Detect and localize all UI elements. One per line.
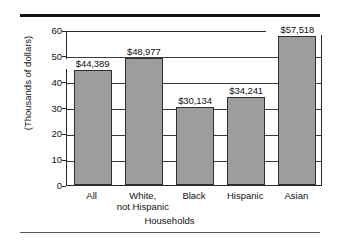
- y-axis-tick-label: 40: [36, 78, 62, 88]
- x-axis-tick-label: Asian: [256, 190, 336, 201]
- bar: [125, 58, 163, 185]
- y-axis-tick-label: 30: [36, 104, 62, 114]
- y-axis-tick-mark: [62, 82, 66, 83]
- y-axis-tick-label: 20: [36, 129, 62, 139]
- bar: [278, 36, 316, 185]
- bar-chart-figure: (Thousands of dollars) 0102030405060 Hou…: [0, 0, 339, 242]
- bar-value-label: $30,134: [164, 96, 226, 106]
- y-axis-tick-mark: [62, 160, 66, 161]
- bar-value-label: $44,389: [62, 59, 124, 69]
- bar: [74, 70, 112, 185]
- y-axis-title: (Thousands of dollars): [23, 8, 33, 158]
- x-axis-tick-label-line: Asian: [256, 190, 336, 201]
- y-axis-tick-mark: [62, 108, 66, 109]
- y-axis-tick-label: 50: [36, 52, 62, 62]
- y-axis-tick-label: 60: [36, 26, 62, 36]
- bar: [227, 97, 265, 185]
- y-axis-tick-mark: [62, 134, 66, 135]
- top-divider-rule: [20, 14, 320, 17]
- y-axis-tick-label: 10: [36, 155, 62, 165]
- bar-value-label: $57,518: [266, 25, 328, 35]
- y-axis-tick-mark: [62, 186, 66, 187]
- bottom-divider-rule: [20, 232, 320, 233]
- x-axis-tick-label-line: not Hispanic: [103, 201, 183, 212]
- y-axis-tick-labels: 0102030405060: [36, 31, 62, 186]
- plot-area: [66, 31, 322, 186]
- x-axis-title: Households: [0, 215, 339, 226]
- y-axis-tick-mark: [62, 31, 66, 32]
- bar-value-label: $48,977: [113, 47, 175, 57]
- y-axis-tick-mark: [62, 56, 66, 57]
- bar-value-label: $34,241: [215, 86, 277, 96]
- bar: [176, 107, 214, 185]
